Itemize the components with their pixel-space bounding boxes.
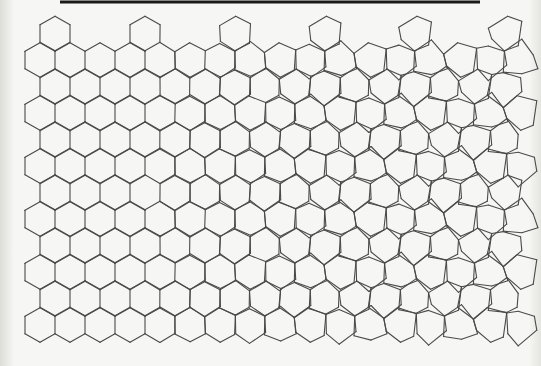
- tile-edge: [369, 228, 387, 239]
- tile-edge: [130, 69, 145, 78]
- tile-edge: [488, 28, 491, 39]
- tile-edge: [429, 237, 431, 257]
- tile-edge: [205, 149, 220, 158]
- tile-edge: [341, 41, 354, 54]
- tile-edge: [294, 104, 295, 123]
- tile-edge: [175, 307, 190, 316]
- tile-edge: [190, 334, 205, 342]
- tile-edge: [115, 202, 130, 211]
- tile-edge: [235, 148, 249, 156]
- tile-edge: [294, 149, 308, 159]
- tile-edge: [251, 147, 265, 157]
- tile-edge: [414, 255, 428, 266]
- tile-edge: [190, 289, 191, 307]
- tile-edge: [145, 308, 160, 316]
- tile-edge: [458, 240, 459, 254]
- tile-edge: [294, 159, 295, 173]
- tile-edge: [417, 175, 431, 181]
- tile-edge: [478, 228, 489, 240]
- tile-edge: [371, 306, 384, 319]
- tile-edge: [25, 308, 40, 317]
- tile-edge: [251, 42, 265, 53]
- tile-edge: [339, 96, 357, 103]
- tile-edge: [25, 334, 40, 343]
- tile-edge: [190, 95, 205, 104]
- tile-edge: [160, 69, 175, 78]
- tile-edge: [264, 335, 280, 341]
- tile-edge: [295, 94, 311, 104]
- tile-edge: [266, 254, 279, 261]
- tile-edge: [414, 107, 417, 119]
- tile-edge: [339, 255, 357, 262]
- tile-edge: [70, 202, 85, 211]
- tile-edge: [266, 68, 281, 78]
- tile-edge: [205, 202, 219, 209]
- tile-edge: [115, 69, 130, 78]
- tile-edge: [475, 92, 492, 104]
- tile-edge: [235, 121, 250, 131]
- tile-edge: [387, 228, 401, 234]
- tile-edge: [325, 200, 341, 211]
- tile-edge: [145, 334, 160, 343]
- tile-edge: [145, 16, 160, 25]
- tile-edge: [100, 43, 115, 52]
- tile-edge: [280, 174, 296, 184]
- tile-edge: [85, 96, 100, 105]
- tile-edge: [250, 281, 266, 291]
- tile-edge: [281, 334, 297, 341]
- tile-edge: [100, 255, 115, 264]
- tile-edge: [100, 334, 115, 343]
- tile-edge: [160, 333, 175, 342]
- tile-edge: [324, 96, 338, 106]
- tile-edge: [145, 42, 160, 51]
- tile-edge: [130, 334, 145, 343]
- tile-edge: [459, 240, 462, 251]
- tile-edge: [386, 172, 400, 183]
- tile-edge: [266, 227, 281, 237]
- tile-edge: [533, 260, 537, 285]
- tile-edge: [100, 175, 115, 184]
- tile-edge: [326, 156, 327, 175]
- tile-edge: [40, 69, 55, 78]
- tile-edge: [85, 334, 100, 343]
- tile-edge: [130, 43, 145, 52]
- tile-edge: [40, 281, 55, 290]
- tile-edge: [416, 278, 430, 289]
- tile-edge: [311, 71, 324, 76]
- tile-edge: [294, 318, 295, 332]
- tile-edge: [25, 281, 40, 290]
- tile-edge: [369, 69, 387, 80]
- tile-edge: [399, 16, 417, 27]
- tile-edge: [414, 96, 428, 107]
- tile-edge: [459, 228, 478, 240]
- tile-edge: [160, 149, 175, 157]
- tile-edge: [339, 173, 356, 186]
- tile-edge: [503, 255, 517, 267]
- tile-edge: [503, 210, 504, 231]
- tile-edge: [25, 202, 40, 211]
- tile-edge: [473, 320, 476, 331]
- tile-edge: [371, 284, 384, 288]
- tile-edge: [70, 43, 85, 52]
- tile-edge: [416, 314, 417, 334]
- tile-edge: [356, 226, 369, 239]
- tile-edge: [145, 69, 160, 78]
- tile-edge: [444, 316, 445, 336]
- tile-edge: [220, 131, 221, 149]
- tile-edge: [533, 214, 538, 228]
- tile-edge: [130, 175, 145, 184]
- tile-edge: [266, 227, 280, 238]
- tile-edge: [279, 69, 296, 79]
- tile-edge: [508, 16, 522, 21]
- tile-edge: [264, 176, 280, 182]
- tile-edge: [250, 122, 266, 132]
- tile-edge: [503, 267, 506, 277]
- tile-edge: [205, 158, 206, 174]
- tile-edge: [190, 307, 205, 317]
- tile-edge: [251, 201, 265, 212]
- tile-edge: [236, 16, 251, 24]
- tile-edge: [503, 96, 517, 108]
- tile-edge: [446, 261, 447, 281]
- tile-edge: [296, 44, 310, 50]
- tile-edge: [40, 43, 55, 52]
